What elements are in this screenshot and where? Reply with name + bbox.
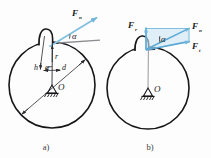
figure-background [0, 0, 211, 158]
panel-a-label-force-n-sub: n [79, 15, 82, 20]
panel-b-label-force-t: F [191, 41, 198, 51]
panel-b-label-force-r: F [127, 20, 134, 30]
panel-b-caption: b) [146, 142, 153, 152]
panel-a-label-alpha-upper: α [72, 31, 77, 41]
panel-a-label-force-n: F [71, 8, 78, 18]
panel-a-label-h: h [34, 63, 38, 72]
panel-b-label-force-r-sub: r [135, 27, 137, 32]
panel-a-cam-lobe [39, 29, 53, 46]
mechanics-figure-container: F n α h α r d O a) [0, 0, 211, 158]
panel-b-label-force-n: F [191, 21, 198, 31]
panel-b-label-alpha: α [161, 34, 166, 44]
panel-b-label-pivot-o: O [154, 84, 161, 94]
panel-b-label-force-n-sub: n [199, 28, 202, 33]
panel-a-label-pivot-o: O [58, 82, 65, 92]
panel-a-caption: a) [43, 142, 50, 152]
mechanics-figure-svg: F n α h α r d O a) [0, 0, 211, 158]
